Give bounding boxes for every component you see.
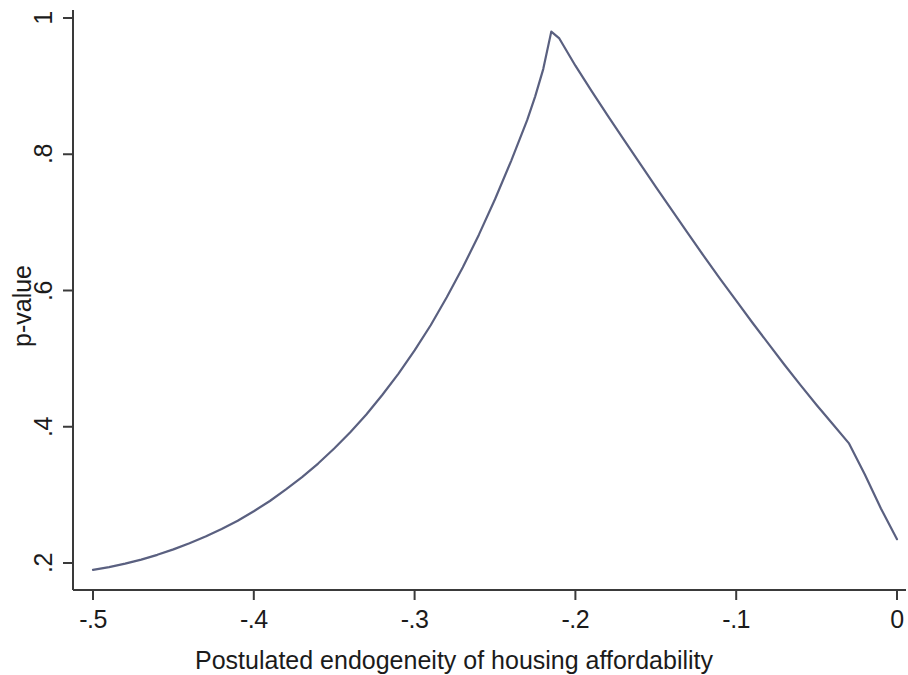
x-axis-title: Postulated endogeneity of housing afford… — [0, 646, 908, 675]
y-tick-label: .4 — [31, 417, 56, 437]
x-tick-label: -.1 — [722, 607, 750, 632]
y-tick-label: .2 — [31, 553, 56, 573]
x-tick-label: -.4 — [240, 607, 268, 632]
y-tick-label: 1 — [31, 11, 56, 24]
y-tick-marks — [63, 18, 73, 563]
x-tick-label: -.5 — [79, 607, 107, 632]
x-tick-label: -.2 — [562, 607, 590, 632]
x-tick-label: 0 — [890, 607, 903, 632]
x-tick-marks — [93, 590, 897, 600]
y-axis-title: p-value — [8, 265, 37, 347]
y-tick-label: .8 — [31, 144, 56, 164]
p-value-curve — [93, 32, 897, 570]
axis-lines — [73, 10, 906, 590]
x-tick-label: -.3 — [401, 607, 429, 632]
